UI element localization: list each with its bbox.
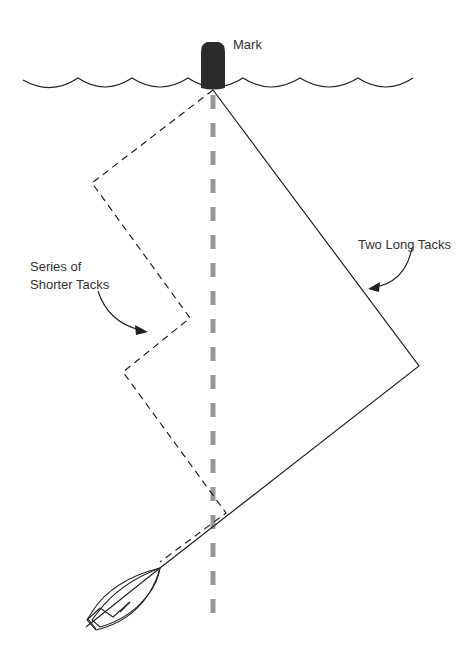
short-tacks-path [92,90,226,562]
long-tacks-arrowhead-icon [368,282,380,292]
mark-label: Mark [233,36,262,53]
short-tacks-label-line1: Series of [30,258,81,275]
short-tacks-label-line2: Shorter Tacks [30,276,109,293]
long-tacks-arrow [375,248,412,287]
short-tacks-arrow [98,291,140,330]
long-tacks-label: Two Long Tacks [358,236,451,253]
sailing-tacks-diagram: Mark Two Long Tacks Series of Shorter Ta… [0,0,476,660]
diagram-graphics [0,0,476,660]
sailboat-icon [86,568,160,630]
long-tacks-path [160,90,419,568]
mark-buoy-icon [201,42,225,90]
short-tacks-arrowhead-icon [135,325,148,335]
